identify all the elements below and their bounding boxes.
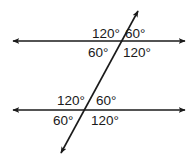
angle-label-top-lower-left: 60° — [88, 45, 108, 60]
angle-label-bottom-upper-left: 120° — [57, 93, 85, 108]
angle-label-bottom-lower-left: 60° — [53, 113, 73, 128]
angle-label-bottom-upper-right: 60° — [96, 93, 116, 108]
angle-label-bottom-lower-right: 120° — [91, 113, 119, 128]
parallel-lines-diagram: 120° 60° 60° 120° 120° 60° 60° 120° — [0, 0, 194, 160]
angle-label-top-lower-right: 120° — [123, 45, 151, 60]
angle-label-top-upper-left: 120° — [92, 26, 120, 41]
angle-label-top-upper-right: 60° — [125, 26, 145, 41]
